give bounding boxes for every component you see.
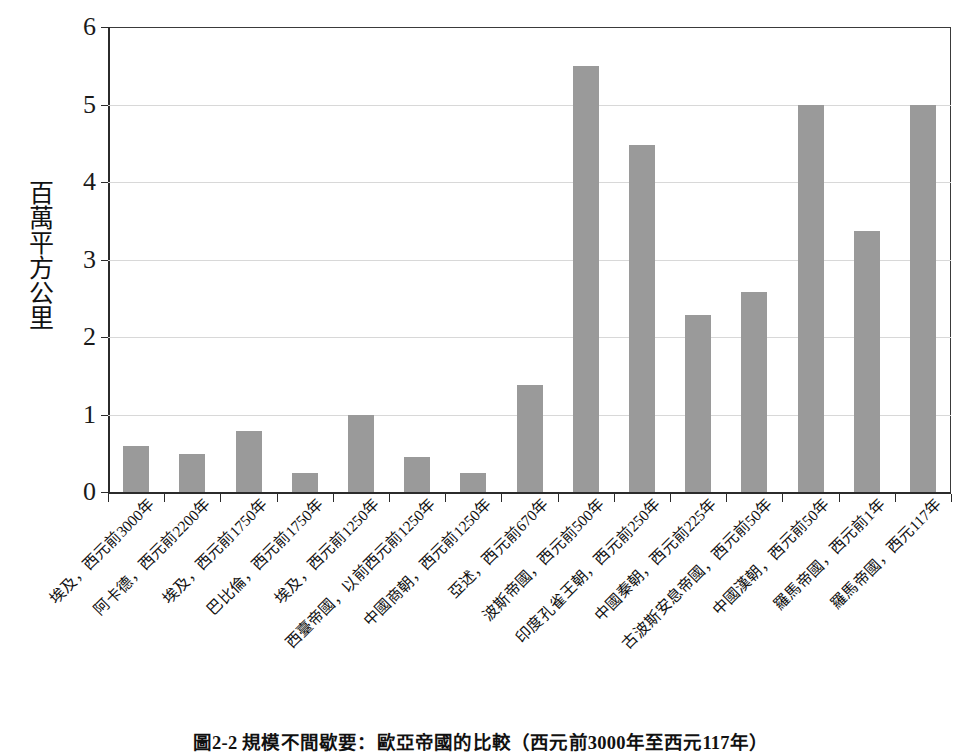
x-axis-label: 埃及，西元前3000年 xyxy=(47,496,158,607)
x-axis-labels: 埃及，西元前3000年阿卡德，西元前2200年埃及，西元前1750年巴比倫，西元… xyxy=(108,496,951,696)
bar xyxy=(517,385,543,492)
bar xyxy=(854,231,880,492)
gridline xyxy=(108,182,951,183)
y-tick-mark xyxy=(101,492,108,493)
bar xyxy=(798,105,824,493)
figure-caption: 圖2-2 規模不間歇要：歐亞帝國的比較（西元前3000年至西元117年） xyxy=(0,728,961,752)
bar xyxy=(123,446,149,493)
x-axis-label: 羅馬帝國，西元117年 xyxy=(828,496,944,612)
plot-border-top xyxy=(108,27,951,28)
y-tick-label: 3 xyxy=(83,247,96,273)
x-axis-label: 羅馬帝國，西元前1年 xyxy=(771,496,888,613)
gridline xyxy=(108,260,951,261)
y-tick-mark xyxy=(101,105,108,106)
plot-border-right xyxy=(950,27,951,494)
x-axis-label: 亞述，西元前670年 xyxy=(445,496,550,601)
x-axis-line xyxy=(108,492,951,494)
y-tick-mark xyxy=(101,27,108,28)
x-axis-label: 埃及，西元前1750年 xyxy=(159,496,270,607)
y-tick-label: 2 xyxy=(83,324,96,350)
gridline xyxy=(108,337,951,338)
y-tick-label: 0 xyxy=(83,479,96,505)
bar xyxy=(629,145,655,492)
bar xyxy=(460,473,486,492)
y-tick-mark xyxy=(101,182,108,183)
plot-area: 0123456 xyxy=(108,27,951,494)
bar xyxy=(292,473,318,492)
y-tick-mark xyxy=(101,337,108,338)
gridline xyxy=(108,105,951,106)
bar xyxy=(685,315,711,492)
x-tick-mark xyxy=(951,494,952,502)
bar xyxy=(404,457,430,492)
bar xyxy=(741,292,767,492)
y-tick-mark xyxy=(101,415,108,416)
bar xyxy=(179,454,205,492)
bar xyxy=(236,431,262,492)
bar xyxy=(348,415,374,492)
bar xyxy=(910,105,936,492)
y-tick-mark xyxy=(101,260,108,261)
y-tick-label: 4 xyxy=(83,169,96,195)
y-axis-line xyxy=(108,27,110,494)
bar xyxy=(573,66,599,492)
y-axis-title: 百萬平方公里 xyxy=(8,180,52,330)
y-tick-label: 6 xyxy=(83,14,96,40)
y-tick-label: 5 xyxy=(83,92,96,118)
x-axis-label: 埃及，西元前1250年 xyxy=(271,496,382,607)
y-tick-label: 1 xyxy=(83,402,96,428)
figure-bar-chart: 百萬平方公里 0123456 埃及，西元前3000年阿卡德，西元前2200年埃及… xyxy=(0,0,961,752)
